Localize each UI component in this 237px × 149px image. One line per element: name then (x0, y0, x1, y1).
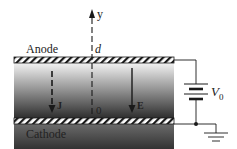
voltage-symbol: V (211, 84, 219, 99)
circuit-wires (174, 60, 216, 133)
anode-label: Anode (26, 43, 58, 55)
e-label: E (137, 101, 144, 111)
ground-icon (204, 133, 228, 141)
battery (184, 84, 208, 99)
y-axis-arrowhead-icon (89, 9, 95, 18)
d-label: d (95, 43, 101, 55)
y-axis-label: y (97, 8, 103, 20)
voltage-label: V0 (211, 85, 223, 102)
junction-dot (194, 122, 198, 126)
cathode-label: Cathode (26, 128, 66, 140)
origin-label: 0 (96, 105, 102, 116)
anode-plate (14, 57, 174, 63)
cathode-plate (14, 118, 174, 124)
voltage-subscript: 0 (219, 92, 224, 102)
j-label: J (57, 101, 62, 111)
